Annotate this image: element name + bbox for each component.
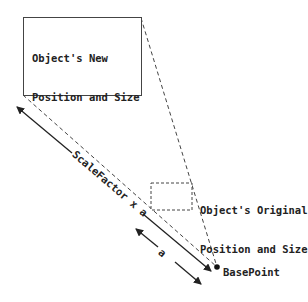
original-object-box bbox=[151, 183, 192, 210]
new-object-label-line1: Object's New bbox=[32, 52, 139, 65]
short-arrow-lower bbox=[175, 262, 201, 284]
base-point-label: BasePoint bbox=[223, 266, 280, 279]
new-object-label: Object's New Position and Size bbox=[32, 26, 139, 117]
original-object-label-line1: Object's Original bbox=[200, 204, 307, 217]
original-object-label: Object's Original Position and Size bbox=[200, 178, 307, 269]
original-object-label-line2: Position and Size bbox=[200, 243, 307, 256]
projection-line-left bbox=[23, 95, 217, 267]
new-object-label-line2: Position and Size bbox=[32, 91, 139, 104]
short-arrow-upper bbox=[136, 229, 158, 247]
